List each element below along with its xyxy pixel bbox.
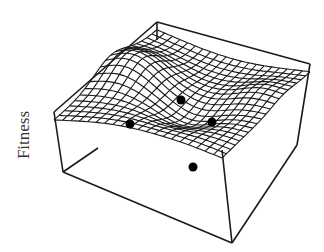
grid-line-v [121,49,279,99]
box-edge [297,64,310,145]
fitness-landscape-diagram [0,0,324,252]
population-point-marker [208,118,217,127]
grid-line-v [100,65,261,119]
box-edge [63,172,232,243]
grid-line-u [146,61,241,132]
grid-line-v [54,120,222,158]
population-point-marker [177,96,186,105]
grid-line-v [106,58,267,114]
box-edge [232,145,297,243]
box-front-edges [54,64,310,243]
wireframe-surface [54,30,310,158]
box-edge [54,112,63,172]
population-point-marker [126,120,135,129]
box-edge [222,150,232,243]
fitness-axis-label: Fitness [14,105,34,165]
box-edge [54,22,157,112]
population-point-marker [189,163,198,172]
box-edge [63,148,98,172]
